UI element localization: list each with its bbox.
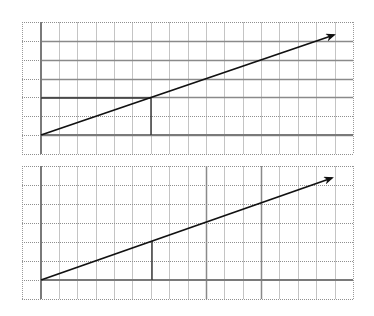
vector-arrow bbox=[41, 178, 332, 280]
bottom-grid-panel bbox=[22, 166, 354, 300]
vector-arrow bbox=[41, 35, 334, 135]
top-grid-panel bbox=[22, 22, 354, 155]
vector-grid-diagram bbox=[0, 0, 374, 316]
